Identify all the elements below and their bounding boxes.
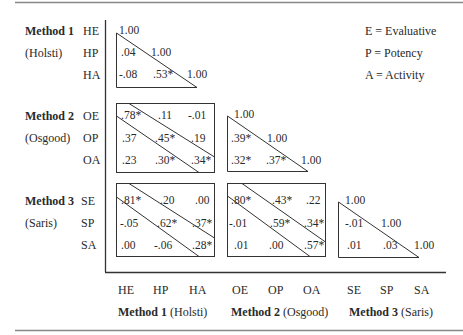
cell: .59* [270, 216, 290, 230]
cell: .00 [195, 193, 209, 207]
cell: .32* [231, 153, 251, 167]
cell: -.01 [229, 216, 247, 230]
col-group-3: Method 3 (Saris) [349, 305, 433, 319]
cell: .19 [191, 131, 205, 145]
cell: .04 [121, 45, 135, 59]
col-label: SE [347, 283, 361, 297]
col-source-2: (Osgood) [283, 305, 328, 319]
col-method-1: Method 1 [118, 305, 167, 319]
cell: 1.00 [187, 67, 207, 81]
row-method-1: Method 1 [25, 24, 74, 38]
col-method-2: Method 2 [231, 305, 280, 319]
row-label: SE [81, 194, 95, 208]
col-method-3: Method 3 [349, 305, 398, 319]
row-source-3: (Saris) [25, 216, 57, 230]
row-label: SA [81, 238, 96, 252]
col-label: HE [118, 283, 134, 297]
cell: .30* [155, 153, 175, 167]
col-label: OP [268, 283, 283, 297]
col-group-2: Method 2 (Osgood) [231, 305, 328, 319]
legend-evaluative: E = Evaluative [365, 24, 436, 38]
row-method-2: Method 2 [25, 109, 74, 123]
col-source-1: (Holsti) [170, 305, 207, 319]
cell: .01 [347, 238, 361, 252]
cell: .34* [191, 153, 211, 167]
cell: .34* [304, 216, 324, 230]
cell: 1.00 [414, 238, 434, 252]
row-label: HP [83, 46, 98, 60]
cell: 1.00 [151, 45, 171, 59]
col-label: HP [153, 283, 168, 297]
col-label: SA [414, 283, 429, 297]
cell: 1.00 [234, 107, 254, 121]
cell: .62* [157, 216, 177, 230]
cell: 1.00 [345, 193, 365, 207]
cell: -.06 [154, 238, 172, 252]
row-label: OA [83, 153, 100, 167]
col-source-3: (Saris) [401, 305, 433, 319]
cell: .53* [153, 67, 173, 81]
cell: .57* [304, 238, 324, 252]
cell: .11 [158, 108, 172, 122]
legend-potency: P = Potency [365, 46, 423, 60]
cell: .45* [155, 131, 175, 145]
cell: 1.00 [381, 216, 401, 230]
cell: .81* [121, 193, 141, 207]
cell: .43* [272, 193, 292, 207]
col-label: HA [189, 283, 206, 297]
cell: .39* [231, 131, 251, 145]
row-label: OP [83, 131, 98, 145]
cell: .22 [306, 193, 320, 207]
col-label: SP [380, 283, 393, 297]
row-label: OE [83, 109, 99, 123]
col-label: OA [303, 283, 320, 297]
cell: .01 [234, 238, 248, 252]
cell: -.08 [119, 67, 137, 81]
row-label: SP [81, 216, 94, 230]
cell: .00 [269, 238, 283, 252]
col-label: OE [232, 283, 248, 297]
cell: -.01 [188, 108, 206, 122]
row-source-1: (Holsti) [25, 46, 62, 60]
row-label: HA [83, 68, 100, 82]
cell: .28* [192, 238, 212, 252]
cell: -.01 [345, 216, 363, 230]
legend-activity: A = Activity [365, 68, 424, 82]
cell: .00 [121, 238, 135, 252]
cell: 1.00 [301, 153, 321, 167]
cell: 1.00 [267, 131, 287, 145]
cell: .37* [192, 216, 212, 230]
row-source-2: (Osgood) [25, 131, 70, 145]
row-method-3: Method 3 [25, 194, 74, 208]
cell: .37 [122, 131, 136, 145]
row-label: HE [83, 24, 99, 38]
cell: .78* [121, 108, 141, 122]
cell: .03 [383, 238, 397, 252]
cell: .37* [266, 153, 286, 167]
cell: .23 [122, 153, 136, 167]
cell: .20 [160, 193, 174, 207]
cell: 1.00 [119, 23, 139, 37]
col-group-1: Method 1 (Holsti) [118, 305, 207, 319]
cell: .80* [231, 193, 251, 207]
cell: -.05 [120, 216, 138, 230]
